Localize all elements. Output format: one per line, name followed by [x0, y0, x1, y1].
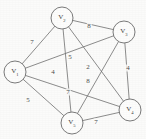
edge-weight-v2-v5: 4	[51, 69, 56, 76]
edge-weight-v2-v4: 2	[86, 64, 91, 71]
edge-weight-v4-v5: 7	[94, 119, 99, 126]
graph-node-label-v1: V1	[11, 67, 18, 76]
graph-edge-v1-v4	[25, 75, 119, 106]
edge-weight-v1-v2: 7	[30, 39, 35, 46]
graph-edge-v2-v3	[73, 20, 114, 29]
edge-weight-v2-v3: 8	[87, 23, 92, 30]
graph-edge-v2-v5	[63, 29, 71, 112]
edge-weight-v3-v5: 8	[86, 78, 91, 85]
graph-edge-v1-v2	[22, 26, 55, 63]
graph-node-label-v2: V2	[58, 13, 65, 22]
edge-weight-v1-v4: 7	[66, 89, 71, 96]
graph-figure: V1V2V3V4V57852448757	[0, 0, 146, 139]
graph-edge-v3-v5	[77, 42, 118, 114]
edge-weight-v1-v3: 5	[68, 54, 73, 61]
edge-weight-v3-v4: 4	[126, 65, 131, 72]
graph-node-label-v5: V5	[68, 118, 75, 127]
node-layer	[4, 7, 141, 134]
edge-weight-v1-v5: 5	[26, 97, 31, 104]
graph-node-label-v4: V4	[126, 105, 133, 114]
graph-node-label-v3: V3	[120, 27, 127, 36]
graph-edge-v4-v5	[83, 112, 120, 120]
